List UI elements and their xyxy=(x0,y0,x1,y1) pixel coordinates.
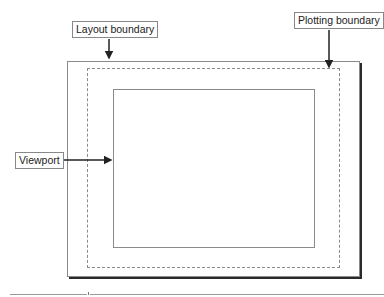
plotting-boundary-label: Plotting boundary xyxy=(294,12,384,29)
layout-boundary-label: Layout boundary xyxy=(72,21,158,38)
arrows-overlay xyxy=(0,0,384,297)
viewport-label: Viewport xyxy=(15,152,64,169)
footer-rule xyxy=(10,294,384,295)
page-marker xyxy=(87,291,90,296)
